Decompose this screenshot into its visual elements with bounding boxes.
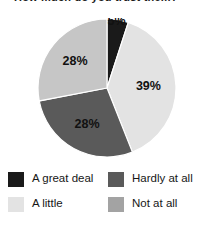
pie-slice-label-hardly-at-all: 28% xyxy=(75,117,100,131)
pie-chart-svg: 5%39%28%28% xyxy=(37,18,177,158)
pie-chart-canvas: 5%39%28%28% xyxy=(37,18,177,158)
legend-item-a-little[interactable]: A little xyxy=(8,196,63,212)
pie-slice-label-a-little: 39% xyxy=(136,79,161,93)
legend-swatch-a-great-deal xyxy=(8,172,24,187)
legend-item-not-at-all[interactable]: Not at all xyxy=(108,196,177,212)
pie-slice-label-not-at-all: 28% xyxy=(63,54,88,68)
pie-slice-label-a-great-deal: 5% xyxy=(107,18,125,28)
legend-item-a-great-deal[interactable]: A great deal xyxy=(8,171,93,187)
pie-chart: 5%39%28%28% xyxy=(0,0,215,166)
legend-label-a-little: A little xyxy=(32,198,63,210)
legend-label-hardly-at-all: Hardly at all xyxy=(132,173,193,185)
legend-item-hardly-at-all[interactable]: Hardly at all xyxy=(108,171,193,187)
legend-swatch-hardly-at-all xyxy=(108,172,124,187)
legend-swatch-a-little xyxy=(8,197,24,212)
legend-label-a-great-deal: A great deal xyxy=(32,173,93,185)
chart-legend: A great deal Hardly at all A little Not … xyxy=(0,168,215,226)
legend-swatch-not-at-all xyxy=(108,197,124,212)
legend-label-not-at-all: Not at all xyxy=(132,198,177,210)
